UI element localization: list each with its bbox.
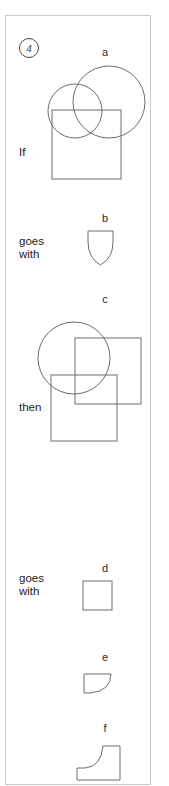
large-circle-icon [73,66,145,138]
small-circle-icon [48,84,102,138]
figure-a [31,61,151,186]
concave-boot-icon [77,746,120,780]
figure-label-a: a [95,46,115,58]
figure-label-f: f [95,722,115,734]
square-icon [52,110,121,179]
figure-c [31,311,156,446]
figure-b [84,228,118,268]
square-bottom-left-icon [51,375,117,441]
figure-d[interactable] [80,578,116,614]
shield-icon [88,231,113,265]
figure-f[interactable] [72,738,128,786]
relation-then: then [19,401,41,414]
square-icon [83,581,112,610]
figure-e[interactable] [80,668,120,700]
relation-if: If [19,146,25,159]
figure-label-c: c [95,293,115,305]
figure-label-b: b [95,212,115,224]
figure-label-d: d [95,562,115,574]
item-number-badge: 4 [19,38,39,58]
circle-icon [38,322,110,394]
quarter-round-quadrilateral-icon [84,674,111,693]
relation-goes-with-1: goes with [19,235,44,261]
figure-label-e: e [95,651,115,663]
relation-goes-with-2: goes with [19,572,44,598]
puzzle-card: 4 a If b goes with c then d goes with e … [5,15,151,785]
